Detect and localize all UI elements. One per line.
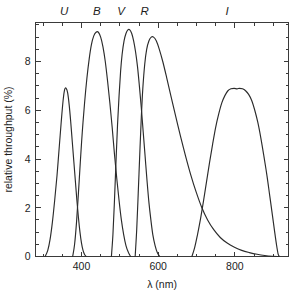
y-axis-tick-labels: 02468: [25, 55, 31, 262]
x-tick-label: 400: [73, 260, 91, 272]
band-label-v: V: [117, 5, 126, 17]
band-label-i: I: [226, 5, 230, 17]
curve-v: [111, 29, 159, 256]
filter-throughput-chart: 400600800 02468 UBVRI λ (nm) relative th…: [0, 0, 303, 297]
y-tick-label: 0: [25, 250, 31, 262]
x-axis-minor-ticks: [43, 23, 273, 257]
band-label-r: R: [141, 5, 149, 17]
chart-canvas: 400600800 02468 UBVRI λ (nm) relative th…: [0, 0, 303, 297]
band-label-u: U: [60, 5, 69, 17]
curve-r: [135, 37, 279, 257]
y-tick-label: 2: [25, 202, 31, 214]
x-axis-title: λ (nm): [147, 278, 177, 290]
y-axis-title: relative throughput (%): [2, 86, 14, 192]
y-tick-label: 4: [25, 153, 31, 165]
throughput-curves: [45, 29, 279, 256]
curve-b: [73, 32, 131, 257]
y-tick-label: 6: [25, 104, 31, 116]
y-tick-label: 8: [25, 55, 31, 67]
band-labels: UBVRI: [60, 5, 229, 17]
x-axis-tick-labels: 400600800: [73, 260, 244, 272]
curve-i: [192, 88, 279, 256]
band-label-b: B: [93, 5, 101, 17]
x-tick-label: 800: [226, 260, 244, 272]
x-tick-label: 600: [149, 260, 167, 272]
